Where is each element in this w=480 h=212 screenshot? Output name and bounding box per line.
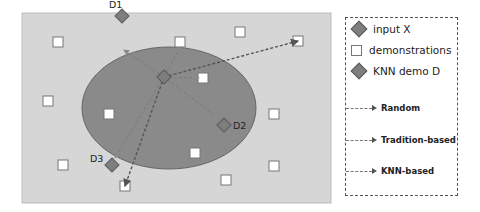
legend: input X demonstrations KNN demo D Random… [345,17,458,196]
demonstration-square [221,175,231,185]
knn-neighborhood-ellipse [82,47,256,169]
legend-random: Random [346,103,420,113]
legend-input: input X [350,23,411,35]
demonstration-square [53,37,63,47]
arrow-icon [372,168,377,174]
square-icon [351,45,362,56]
arrow-icon [372,137,377,143]
demonstration-square [269,109,279,119]
dashed-line-icon [346,108,372,109]
knn-demo-label: D2 [233,120,246,131]
demonstration-square [43,96,53,106]
legend-knn-based-label: KNN-based [381,166,434,176]
demonstration-square [175,37,185,47]
demonstration-square [58,160,68,170]
legend-demonstrations-label: demonstrations [369,44,451,56]
knn-demo-label: D3 [90,153,103,164]
legend-knn-demo: KNN demo D [350,65,440,77]
legend-tradition: Tradition-based [346,135,456,145]
demonstration-square [235,27,245,37]
legend-input-label: input X [373,23,411,35]
diamond-icon [351,63,368,80]
arrow-icon [372,105,377,111]
dashed-line-icon [346,140,372,141]
diamond-icon [351,21,368,38]
demonstration-square [269,161,279,171]
demonstration-square [190,148,200,158]
legend-knn-demo-label: KNN demo D [373,65,440,77]
legend-random-label: Random [381,103,420,113]
legend-knn-based: KNN-based [346,166,434,176]
legend-tradition-label: Tradition-based [381,135,456,145]
demonstration-square [104,109,114,119]
knn-demo-label: D1 [109,0,122,10]
demonstration-square [198,73,208,83]
legend-demonstrations: demonstrations [350,44,451,56]
dashed-line-icon [346,171,372,172]
